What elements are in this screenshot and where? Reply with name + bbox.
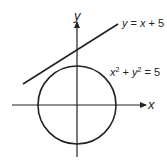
y-axis-label: y	[73, 8, 82, 23]
x-axis-label: x	[147, 97, 155, 112]
line-equation-label: y = x + 5	[121, 17, 164, 29]
line-curve	[23, 24, 118, 84]
coordinate-diagram: y x y = x + 5 x2 + y2 = 5	[0, 0, 167, 165]
circle-equation-label: x2 + y2 = 5	[109, 66, 160, 78]
